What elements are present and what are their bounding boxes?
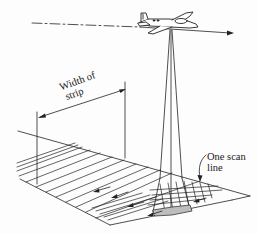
one-scan-line-line1: One scan bbox=[207, 151, 246, 162]
flight-path-line bbox=[32, 23, 234, 36]
one-scan-line-label: One scan line bbox=[207, 151, 246, 173]
one-scan-line-line2: line bbox=[207, 162, 246, 173]
instantaneous-footprint bbox=[153, 205, 192, 216]
scanner-strip-diagram: Width of strip One scan line bbox=[0, 0, 257, 234]
airplane-icon bbox=[138, 12, 198, 34]
scan-line-pointer bbox=[198, 155, 207, 182]
diagram-drawing bbox=[0, 0, 257, 234]
ground-plane bbox=[18, 131, 250, 225]
